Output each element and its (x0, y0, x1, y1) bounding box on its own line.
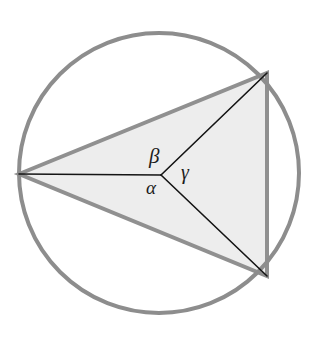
angle-label-alpha: α (146, 178, 156, 197)
geometry-figure: β α γ (0, 0, 319, 339)
angle-label-gamma: γ (181, 162, 189, 182)
geometry-canvas (0, 0, 319, 339)
angle-label-beta: β (149, 146, 159, 167)
radius-to-left-vertex (19, 174, 161, 175)
